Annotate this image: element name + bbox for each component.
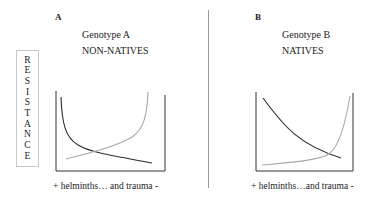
panel-a-x-axis-label: + helminths… and trauma - <box>53 181 158 191</box>
panel-a-dark-curve <box>61 97 152 163</box>
panel-a-axes <box>56 91 165 171</box>
panel-a-light-curve <box>66 92 148 159</box>
panel-b-dark-curve <box>263 98 341 158</box>
panel-b-x-axis-label: + helminths…and trauma - <box>251 181 354 191</box>
plots-canvas <box>0 0 370 199</box>
panel-b-axes <box>256 92 353 171</box>
panel-b-light-curve <box>262 96 350 165</box>
